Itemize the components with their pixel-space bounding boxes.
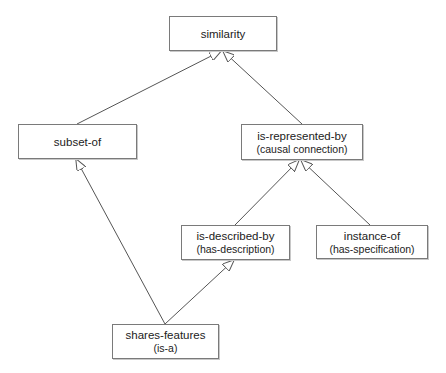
- node-label: subset-of: [54, 135, 101, 149]
- node-sublabel: (is-a): [154, 342, 178, 355]
- edge-is-represented-by-to-similarity: [223, 51, 302, 124]
- node-label: is-described-by: [197, 229, 275, 243]
- node-label: similarity: [201, 27, 246, 41]
- edge-shares-features-to-is-described-by: [165, 260, 234, 324]
- edge-shares-features-to-subset-of: [76, 159, 165, 324]
- node-is-described-by: is-described-by (has-description): [181, 225, 290, 260]
- node-subset-of: subset-of: [18, 124, 137, 159]
- node-label: instance-of: [344, 229, 400, 243]
- node-sublabel: (causal connection): [256, 143, 347, 156]
- edge-subset-of-to-similarity: [77, 51, 221, 124]
- node-sublabel: (has-specification): [329, 243, 414, 256]
- node-label: is-represented-by: [257, 129, 346, 143]
- node-is-represented-by: is-represented-by (causal connection): [241, 124, 363, 160]
- edge-is-described-by-to-is-represented-by: [235, 160, 299, 225]
- edges-layer: [0, 0, 446, 373]
- node-sublabel: (has-description): [196, 243, 274, 256]
- node-instance-of: instance-of (has-specification): [316, 225, 428, 259]
- node-similarity: similarity: [169, 16, 277, 51]
- node-label: shares-features: [126, 328, 206, 342]
- node-shares-features: shares-features (is-a): [112, 324, 219, 359]
- edge-instance-of-to-is-represented-by: [301, 160, 370, 225]
